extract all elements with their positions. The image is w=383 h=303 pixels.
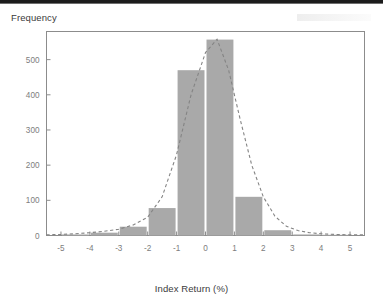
plot-frame: [47, 32, 365, 236]
chart-page: Frequency 0100200300400500 -5-4-3-2-1012…: [0, 0, 383, 303]
y-tick-label: 500: [26, 56, 40, 65]
x-tick-label: 5: [348, 244, 353, 253]
histogram-bar: [235, 197, 262, 236]
x-tick-label: -3: [115, 244, 123, 253]
x-tick-label: 1: [232, 244, 237, 253]
histogram-bar: [264, 230, 291, 235]
x-axis-title: Index Return (%): [0, 283, 383, 294]
histogram-plot: 0100200300400500 -5-4-3-2-1012345: [0, 0, 383, 303]
plot-border: [47, 32, 365, 236]
histogram-bar: [91, 233, 118, 236]
y-tick-label: 200: [26, 161, 40, 170]
histogram-bar: [293, 234, 320, 235]
x-tick-label: 4: [319, 244, 324, 253]
y-tick-label: 0: [35, 232, 40, 241]
x-tick-label: -4: [86, 244, 94, 253]
x-tick-label: -2: [144, 244, 152, 253]
x-tick-label: 2: [261, 244, 266, 253]
y-tick-label: 400: [26, 91, 40, 100]
y-tick-label: 100: [26, 196, 40, 205]
histogram-bar: [207, 40, 234, 236]
x-tick-label: -1: [173, 244, 181, 253]
x-tick-label: 3: [290, 244, 295, 253]
y-tick-label: 300: [26, 126, 40, 135]
histogram-bar: [149, 208, 176, 235]
x-tick-label: 0: [203, 244, 208, 253]
x-tick-label: -5: [57, 244, 65, 253]
